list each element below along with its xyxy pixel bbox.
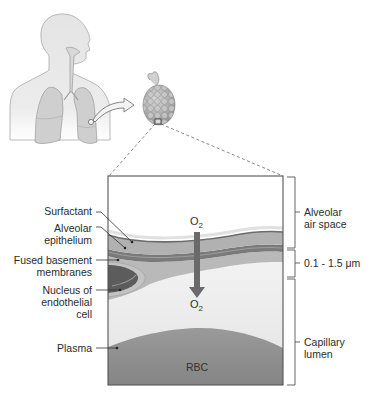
- zoom-dashed-lines: [109, 124, 283, 176]
- right-brackets: [287, 177, 300, 385]
- label-membrane-thickness: 0.1 - 1.5 μm: [304, 257, 360, 269]
- o2-arrow-shaft: [194, 232, 200, 288]
- label-nucleus-endothelial-cell: Nucleus of endothelial cell: [0, 284, 92, 320]
- label-alveolar-epithelium-line1: Alveolar: [0, 222, 92, 234]
- label-capillary-lumen: Capillary lumen: [304, 336, 345, 360]
- label-fused-basement-line1: Fused basement: [0, 254, 92, 266]
- o2-label-top: O2: [190, 215, 203, 230]
- bracket-alveolar-air-space: [287, 177, 295, 248]
- o2-label-bottom: O2: [190, 298, 203, 313]
- label-capillary-lumen-line2: lumen: [304, 348, 345, 360]
- o2-top-subscript: 2: [199, 221, 203, 230]
- o2-top-symbol: O: [190, 215, 199, 227]
- label-nucleus-line1: Nucleus of: [0, 284, 92, 296]
- bracket-capillary-lumen: [287, 279, 295, 385]
- membrane-cross-section: [108, 176, 283, 385]
- label-alveolar-epithelium: Alveolar epithelium: [0, 222, 92, 246]
- label-surfactant: Surfactant: [0, 205, 92, 217]
- alveolar-sac-illustration: [143, 72, 175, 125]
- label-alveolar-air-line2: air space: [304, 218, 347, 230]
- o2-bottom-symbol: O: [190, 298, 199, 310]
- label-capillary-lumen-line1: Capillary: [304, 336, 345, 348]
- bracket-membrane-thickness: [287, 250, 295, 277]
- alveolar-membrane-diagram: Surfactant Alveolar epithelium Fused bas…: [0, 0, 375, 399]
- o2-bottom-subscript: 2: [199, 304, 203, 313]
- label-fused-basement-line2: membranes: [0, 266, 92, 278]
- label-rbc: RBC: [186, 361, 208, 373]
- label-alveolar-air-space: Alveolar air space: [304, 206, 347, 230]
- label-nucleus-line2: endothelial: [0, 296, 92, 308]
- label-plasma: Plasma: [0, 342, 92, 354]
- label-alveolar-epithelium-line2: epithelium: [0, 234, 92, 246]
- label-fused-basement-membranes: Fused basement membranes: [0, 254, 92, 278]
- label-alveolar-air-line1: Alveolar: [304, 206, 347, 218]
- label-nucleus-line3: cell: [0, 308, 92, 320]
- human-torso-illustration: [10, 14, 110, 143]
